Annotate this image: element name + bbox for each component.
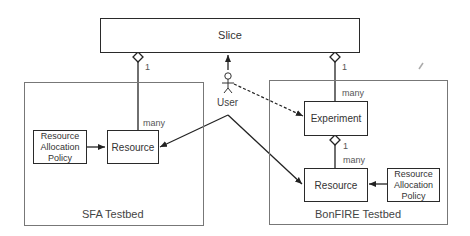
bonfire-policy-line-3: Policy [394,191,433,202]
bonfire-policy-line-2: Allocation [394,180,433,191]
sfa-multiplicity-one: 1 [145,62,150,72]
sfa-multiplicity-many: many [143,118,165,128]
experiment-multiplicity-one: 1 [343,141,348,151]
sfa-resource-label: Resource [112,142,155,153]
bonfire-policy-line-1: Resource [394,169,433,180]
bonfire-resource-label: Resource [315,180,358,191]
sfa-testbed-label: SFA Testbed [82,208,144,220]
experiment-multiplicity-many: many [343,155,365,165]
bonfire-testbed-label: BonFIRE Testbed [315,208,401,220]
sfa-policy-line-2: Allocation [40,142,79,153]
sfa-policy-box: Resource Allocation Policy [33,130,87,164]
pencil-icon [419,63,423,69]
sfa-policy-line-3: Policy [40,153,79,164]
sfa-aggregation-diamond-icon [133,52,143,62]
bonfire-aggregation-diamond-icon [330,52,340,62]
user-label: User [217,97,238,108]
slice-box: Slice [100,18,360,53]
sfa-resource-box: Resource [107,130,159,164]
bonfire-multiplicity-one: 1 [342,62,347,72]
experiment-box: Experiment [304,101,368,136]
sfa-policy-line-1: Resource [40,131,79,142]
bonfire-policy-box: Resource Allocation Policy [387,168,440,202]
bonfire-multiplicity-many: many [342,88,364,98]
experiment-label: Experiment [311,113,362,124]
bonfire-resource-box: Resource [304,168,368,202]
slice-label: Slice [218,30,242,41]
stick-figure-icon [222,73,234,93]
